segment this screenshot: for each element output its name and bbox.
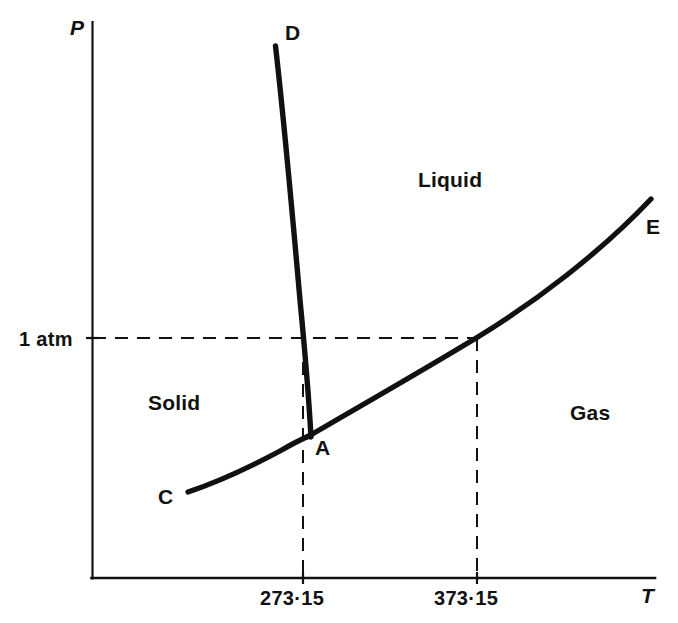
curve-point-label-a: A [315,437,330,458]
region-label-solid: Solid [148,392,200,413]
pressure-marker-label: 1 atm [19,329,73,349]
curve-point-label-e: E [646,216,660,237]
y-axis-label: P [70,17,84,38]
sublimation-curve [188,436,310,493]
x-axis-label: T [641,585,654,606]
fusion-curve [276,46,312,437]
x-tick-label-273: 273·15 [260,588,324,608]
region-label-gas: Gas [570,402,610,423]
region-label-liquid: Liquid [418,169,482,190]
curve-point-label-d: D [285,22,300,43]
x-tick-label-373: 373·15 [434,588,498,608]
phase-diagram-canvas [0,0,678,623]
curve-point-label-c: C [158,486,173,507]
phase-diagram-figure: P T 1 atm 273·15 373·15 Solid Liquid Gas… [0,0,678,623]
